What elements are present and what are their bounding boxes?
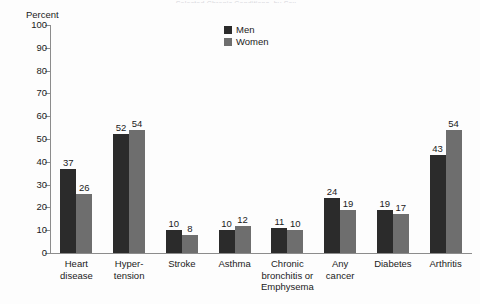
bar-value-label: 8 (187, 223, 192, 234)
bar-women[interactable]: 54 (129, 130, 145, 253)
bar-group: 2419 (324, 25, 356, 253)
bar-men[interactable]: 10 (166, 230, 182, 253)
category-label-line: bronchitis or (261, 270, 314, 282)
y-tick-label: 90 (36, 42, 47, 53)
bar-value-label: 24 (327, 186, 338, 197)
bar-men[interactable]: 43 (430, 155, 446, 253)
y-tick-label: 50 (36, 133, 47, 144)
category-label: Arthritis (430, 258, 462, 270)
bar-value-label: 11 (274, 216, 284, 227)
bar-women[interactable]: 54 (446, 130, 462, 253)
bar-value-label: 10 (169, 218, 180, 229)
y-axis-line (50, 25, 51, 253)
category-label-line: cancer (326, 270, 355, 282)
bar-value-label: 52 (116, 122, 127, 133)
y-tick-label: 70 (36, 87, 47, 98)
bar-value-label: 54 (448, 118, 459, 129)
bar-women[interactable]: 10 (287, 230, 303, 253)
x-axis-line (50, 253, 472, 254)
category-label-line: disease (60, 270, 93, 282)
category-label-line: Diabetes (374, 258, 412, 270)
bar-men[interactable]: 19 (377, 210, 393, 253)
category-label-line: Any (326, 258, 355, 270)
y-tick-label: 0 (42, 247, 47, 258)
bar-women[interactable]: 17 (393, 214, 409, 253)
bar-men[interactable]: 10 (219, 230, 235, 253)
y-tick-label: 60 (36, 110, 47, 121)
category-label: Asthma (219, 258, 251, 270)
category-label-line: Chronic (261, 258, 314, 270)
category-label: Hyper-tension (114, 258, 145, 281)
bar-value-label: 10 (221, 218, 232, 229)
category-label-line: Arthritis (430, 258, 462, 270)
bar-value-label: 54 (132, 118, 143, 129)
x-axis-category-labels: HeartdiseaseHyper-tensionStrokeAsthmaChr… (50, 258, 472, 304)
bar-men[interactable]: 11 (271, 228, 287, 253)
bar-women[interactable]: 19 (340, 210, 356, 253)
y-tick-label: 40 (36, 156, 47, 167)
category-label-line: Hyper- (114, 258, 145, 270)
y-tick-label: 80 (36, 65, 47, 76)
y-tick-label: 20 (36, 201, 47, 212)
category-label: Anycancer (326, 258, 355, 281)
category-label-line: Heart (60, 258, 93, 270)
category-label-line: Asthma (219, 258, 251, 270)
category-label-line: tension (114, 270, 145, 282)
category-label: Chronicbronchitis orEmphysema (261, 258, 314, 293)
bar-group: 1917 (377, 25, 409, 253)
bar-value-label: 26 (79, 182, 90, 193)
y-tick-label: 100 (31, 19, 47, 30)
y-tick-label: 30 (36, 179, 47, 190)
bar-value-label: 19 (343, 198, 354, 209)
bar-value-label: 37 (63, 157, 74, 168)
bar-women[interactable]: 26 (76, 194, 92, 253)
bar-group: 5254 (113, 25, 145, 253)
bar-group: 1110 (271, 25, 303, 253)
category-label: Stroke (168, 258, 195, 270)
bar-women[interactable]: 8 (182, 235, 198, 253)
category-label: Diabetes (374, 258, 412, 270)
bar-men[interactable]: 52 (113, 134, 129, 253)
bar-women[interactable]: 12 (235, 226, 251, 253)
bar-value-label: 12 (237, 214, 248, 225)
bar-value-label: 43 (432, 143, 443, 154)
bar-group: 1012 (219, 25, 251, 253)
bar-value-label: 10 (290, 218, 301, 229)
chart-title-sliver: Selected Chronic Conditions, by Sex (86, 0, 386, 3)
bar-men[interactable]: 37 (60, 169, 76, 253)
y-tick-label: 10 (36, 224, 47, 235)
bar-group: 4354 (430, 25, 462, 253)
bar-value-label: 17 (396, 202, 407, 213)
plot-area: 0102030405060708090100 37265254108101211… (50, 25, 472, 253)
category-label-line: Stroke (168, 258, 195, 270)
bar-men[interactable]: 24 (324, 198, 340, 253)
bar-group: 3726 (60, 25, 92, 253)
chart-container: Selected Chronic Conditions, by Sex Perc… (0, 0, 480, 304)
bar-group: 108 (166, 25, 198, 253)
bar-value-label: 19 (380, 198, 391, 209)
category-label: Heartdisease (60, 258, 93, 281)
category-label-line: Emphysema (261, 281, 314, 293)
